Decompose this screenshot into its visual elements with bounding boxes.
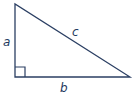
- right-angle-marker: [15, 67, 25, 77]
- right-triangle-diagram: [0, 0, 136, 96]
- side-label-c: c: [72, 26, 79, 38]
- triangle: [15, 4, 130, 77]
- side-label-b: b: [60, 82, 68, 94]
- side-label-a: a: [3, 36, 10, 48]
